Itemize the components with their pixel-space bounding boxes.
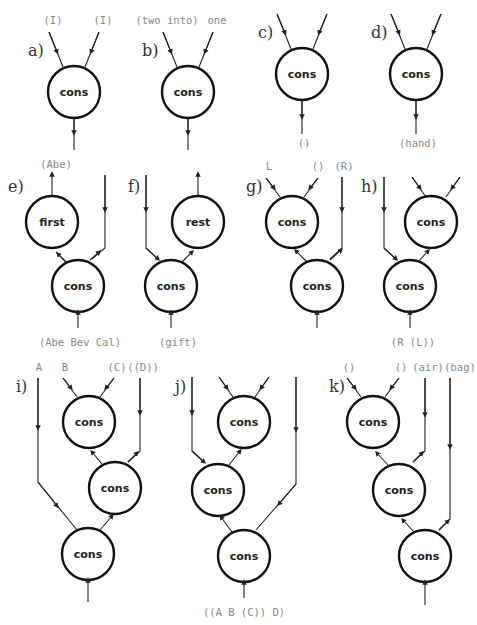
input-label-k-2: () <box>395 361 408 373</box>
arrow-icon <box>192 451 204 462</box>
node-label: cons <box>411 550 440 563</box>
panel-label-j: j) <box>173 377 186 396</box>
node-label: rest <box>186 216 211 229</box>
arrow-icon <box>310 178 318 188</box>
input-label-a-1: (I) <box>44 14 63 26</box>
panel-label-b: b) <box>142 41 158 60</box>
input-label-k-4: (bag) <box>444 361 476 373</box>
arrow-icon <box>439 521 448 530</box>
input-label-j-bottom: ((A B (C)) D) <box>203 606 285 618</box>
input-wire-g-3 <box>330 177 342 259</box>
arrow-icon <box>92 452 102 464</box>
input-wire-j-3 <box>192 377 204 462</box>
input-label-g-3: (R) <box>335 160 354 172</box>
panel-label-g: g) <box>246 177 262 196</box>
arrow-icon <box>58 254 66 262</box>
panel-label-c: c) <box>258 23 273 42</box>
input-label-i-1: A <box>36 361 43 373</box>
input-label-i-4: ((D)) <box>127 361 159 373</box>
panel-a: a) (I) (I) cons <box>28 14 112 150</box>
node-label: cons <box>417 216 446 229</box>
arrow-icon <box>377 453 388 465</box>
input-wire-e <box>92 175 105 259</box>
output-label-e-top: (Abe) <box>40 158 72 170</box>
arrow-icon <box>403 520 414 532</box>
input-label-i-3: (C) <box>108 361 127 373</box>
node-label: cons <box>174 86 203 99</box>
panel-g: g) L () (R) cons cons <box>246 160 353 328</box>
arrow-icon <box>266 178 274 188</box>
arrow-icon <box>277 14 285 33</box>
panel-label-k: k) <box>329 377 345 396</box>
input-label-b-1: (two into) <box>135 14 198 26</box>
arrow-icon <box>38 482 57 506</box>
panel-label-a: a) <box>28 41 44 60</box>
node-label: first <box>39 216 64 229</box>
node-label: cons <box>101 482 130 495</box>
arrow-icon <box>100 516 112 530</box>
node-label: cons <box>359 416 388 429</box>
input-label-h-bottom: (R (L)) <box>391 336 435 348</box>
node-label: cons <box>288 68 317 81</box>
node-label: cons <box>402 68 431 81</box>
arrow-icon <box>330 250 341 260</box>
node-label: cons <box>75 416 104 429</box>
arrow-icon <box>91 32 99 52</box>
arrow-icon <box>418 251 428 262</box>
input-wire-h-3 <box>384 177 396 259</box>
node-label: cons <box>74 548 103 561</box>
panel-b: b) (two into) one cons <box>135 14 226 150</box>
node-label: cons <box>278 216 307 229</box>
arrow-icon <box>106 378 114 388</box>
arrow-icon <box>391 14 399 33</box>
arrow-icon <box>128 453 137 462</box>
node-label: cons <box>60 86 89 99</box>
panel-e: e) (Abe) first cons (Abe Bev Cal) <box>8 158 121 348</box>
input-label-i-2: B <box>62 361 68 373</box>
node-label: cons <box>230 416 259 429</box>
node-label: cons <box>303 280 332 293</box>
arrow-icon <box>163 32 171 52</box>
node-label: cons <box>204 484 233 497</box>
panel-label-h: h) <box>361 177 378 196</box>
panel-label-e: e) <box>8 177 24 196</box>
node-label: cons <box>385 484 414 497</box>
diagram-canvas: a) (I) (I) cons b) (two into) one cons c… <box>0 0 477 625</box>
node-label: cons <box>396 280 425 293</box>
input-wire-f <box>146 175 158 259</box>
input-wire-k-3 <box>413 378 425 462</box>
input-wire-i-4 <box>128 378 140 462</box>
arrow-icon <box>90 252 99 260</box>
node-label: cons <box>157 280 186 293</box>
panel-label-f: f) <box>128 177 140 196</box>
input-label-b-2: one <box>208 14 227 26</box>
input-label-g-2: () <box>312 160 325 172</box>
arrow-icon <box>279 484 296 504</box>
arrow-icon <box>384 248 396 259</box>
arrow-icon <box>452 177 460 188</box>
panel-f: f) rest cons (gift) <box>128 174 224 348</box>
arrow-icon <box>391 378 399 388</box>
input-label-k-1: () <box>343 361 356 373</box>
output-label-c: () <box>298 137 311 149</box>
node-label: cons <box>64 280 93 293</box>
input-label-g-1: L <box>266 160 272 172</box>
panel-d: d) cons (hand) <box>371 14 442 149</box>
panel-label-d: d) <box>371 23 387 42</box>
arrow-icon <box>219 377 227 388</box>
input-label-e-bottom: (Abe Bev Cal) <box>39 336 121 348</box>
panel-k: k) () () (air) (bag) cons cons cons <box>329 361 476 605</box>
arrow-icon <box>221 517 232 532</box>
arrow-icon <box>205 32 213 52</box>
panel-label-i: i) <box>16 377 27 396</box>
arrow-icon <box>347 378 355 388</box>
input-wire-k-4 <box>439 378 450 530</box>
panel-h: h) cons cons (R (L)) <box>361 177 460 348</box>
input-wire-i-1 <box>38 378 77 530</box>
input-label-a-2: (I) <box>94 14 113 26</box>
panel-c: c) cons () <box>258 14 328 149</box>
input-label-k-3: (air) <box>412 361 444 373</box>
output-label-d: (hand) <box>399 137 437 149</box>
arrow-icon <box>413 453 422 462</box>
arrow-icon <box>296 251 307 262</box>
